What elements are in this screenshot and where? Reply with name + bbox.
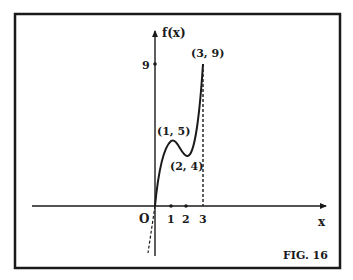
figure-caption: FIG. 16 [283,249,328,262]
x-tick-label-3: 3 [199,213,207,226]
x-axis-label: x [318,215,326,229]
origin-label: O [139,212,149,226]
x-tick-label-2: 2 [182,213,190,226]
point-label-min: (2, 4) [170,160,203,173]
figure-frame [15,14,340,268]
x-tick-label-1: 1 [167,213,175,226]
tick-dot-y9 [153,62,157,66]
y-tick-label-9: 9 [142,59,150,72]
y-axis-label: f(x) [162,26,186,40]
figure-16-graph: f(x) x O 1 2 3 9 (1, 5) (2, 4) (3, 9) FI… [0,0,353,280]
point-label-max: (1, 5) [157,125,190,138]
tick-dot-x2 [184,204,188,208]
point-label-end: (3, 9) [191,47,224,60]
tick-dot-x1 [169,204,173,208]
